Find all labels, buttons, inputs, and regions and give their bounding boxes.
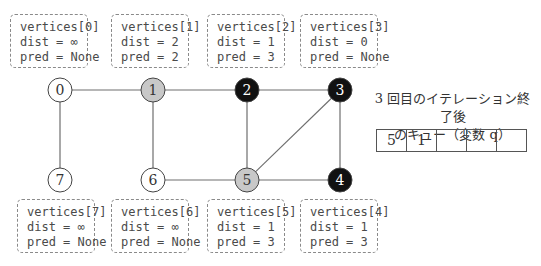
node-3: 3 xyxy=(328,78,352,102)
vertex-info-box-3: vertices[3] dist = 0 pred = None xyxy=(300,14,378,68)
vertex-info-box-0: vertices[0] dist = ∞ pred = None xyxy=(10,14,88,68)
queue-cell: 1 xyxy=(406,129,437,152)
queue-cell: 5 xyxy=(376,129,407,152)
vertex-title: vertices[2] xyxy=(217,20,284,35)
queue-cell xyxy=(436,129,467,152)
vertex-title: vertices[5] xyxy=(217,205,284,220)
vertex-dist: dist = 1 xyxy=(310,220,377,235)
queue-caption-line-1: 3 回目のイテレーション終了後 xyxy=(370,90,535,126)
node-5: 5 xyxy=(235,168,259,192)
node-4: 4 xyxy=(328,168,352,192)
vertex-dist: dist = ∞ xyxy=(27,220,94,235)
vertex-title: vertices[3] xyxy=(310,20,377,35)
node-2: 2 xyxy=(235,78,259,102)
vertex-pred: pred = 3 xyxy=(217,235,284,250)
node-1: 1 xyxy=(141,78,165,102)
vertex-info-box-4: vertices[4] dist = 1 pred = 3 xyxy=(300,199,378,253)
edge-3-5 xyxy=(247,90,340,180)
vertex-pred: pred = 2 xyxy=(121,50,188,65)
svg-text:7: 7 xyxy=(56,172,65,188)
vertex-info-box-6: vertices[6] dist = ∞ pred = None xyxy=(111,199,189,253)
svg-text:5: 5 xyxy=(243,172,252,188)
vertex-title: vertices[1] xyxy=(121,20,188,35)
vertex-pred: pred = None xyxy=(310,50,377,65)
vertex-info-box-5: vertices[5] dist = 1 pred = 3 xyxy=(207,199,285,253)
node-7: 7 xyxy=(48,168,72,192)
svg-text:2: 2 xyxy=(243,82,252,98)
vertex-info-box-7: vertices[7] dist = ∞ pred = None xyxy=(17,199,95,253)
svg-text:3: 3 xyxy=(336,82,345,98)
vertex-pred: pred = None xyxy=(20,50,87,65)
vertex-pred: pred = None xyxy=(27,235,94,250)
vertex-dist: dist = 1 xyxy=(217,220,284,235)
queue-cell xyxy=(466,129,497,152)
vertex-info-box-2: vertices[2] dist = 1 pred = 3 xyxy=(207,14,285,68)
vertex-title: vertices[4] xyxy=(310,205,377,220)
vertex-dist: dist = 1 xyxy=(217,35,284,50)
vertex-info-box-1: vertices[1] dist = 2 pred = 2 xyxy=(111,14,189,68)
node-6: 6 xyxy=(141,168,165,192)
vertex-pred: pred = None xyxy=(121,235,188,250)
vertex-pred: pred = 3 xyxy=(217,50,284,65)
vertex-title: vertices[6] xyxy=(121,205,188,220)
vertex-dist: dist = ∞ xyxy=(121,220,188,235)
vertex-title: vertices[7] xyxy=(27,205,94,220)
vertex-dist: dist = 0 xyxy=(310,35,377,50)
queue-array: 5 1 xyxy=(377,129,527,152)
vertex-dist: dist = ∞ xyxy=(20,35,87,50)
svg-text:6: 6 xyxy=(149,172,158,188)
vertex-title: vertices[0] xyxy=(20,20,87,35)
svg-text:4: 4 xyxy=(336,172,345,188)
queue-cell xyxy=(496,129,527,152)
svg-text:0: 0 xyxy=(56,82,65,98)
svg-text:1: 1 xyxy=(149,82,158,98)
vertex-pred: pred = 3 xyxy=(310,235,377,250)
vertex-dist: dist = 2 xyxy=(121,35,188,50)
node-0: 0 xyxy=(48,78,72,102)
